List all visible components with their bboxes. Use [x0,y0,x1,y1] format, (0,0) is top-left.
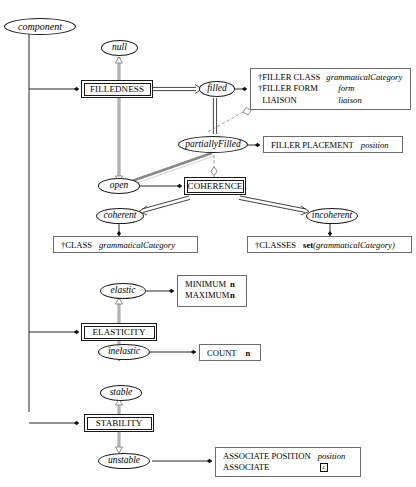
attr-row-class: †CLASS grammaticalCategory [61,240,191,251]
attr-row-filler-placement: FILLER PLACEMENT position [271,140,396,151]
filler-class-box[interactable]: †FILLER CLASS grammaticalCategory †FILLE… [250,68,411,110]
attr-name-minimum: MINIMUM [185,279,230,290]
state-open[interactable]: open [98,178,140,194]
attr-name-count: COUNT [207,348,237,359]
state-partially-filled-label: partiallyFilled [185,140,240,150]
attr-name-filler-form: FILLER FORM [262,83,338,94]
state-unstable-label: unstable [108,456,140,466]
attr-row-count: COUNT n [207,348,254,359]
class-elasticity-label: ELASTICITY [93,327,146,337]
state-component[interactable]: component [4,18,76,35]
state-elastic[interactable]: elastic [100,283,146,299]
attr-value-filler-placement: position [361,140,389,151]
class-attribute-box[interactable]: †CLASS grammaticalCategory [53,236,198,253]
state-null-label: null [112,43,127,53]
attr-name-filler-placement: FILLER PLACEMENT [271,140,354,151]
attr-row-filler-form: †FILLER FORM form [258,83,404,94]
attr-value-count: n [246,348,251,359]
attr-name-associate: ASSOCIATE [223,462,320,473]
class-elasticity[interactable]: ELASTICITY [81,323,157,341]
class-stability-inner: STABILITY [87,417,152,430]
attr-value-filler-class: grammaticalCategory [326,72,402,83]
state-stable-label: stable [110,388,133,398]
state-inelastic-label: inelastic [108,347,140,357]
state-coherent-label: coherent [104,211,137,221]
attr-value-class: grammaticalCategory [99,240,175,251]
class-stability-label: STABILITY [96,418,143,428]
attr-value-classes-arg: (grammaticalCategory) [313,240,395,251]
associate-box[interactable]: ASSOCIATE POSITION position ASSOCIATE c [215,447,361,477]
class-filledness[interactable]: FILLEDNESS [81,80,153,98]
filler-placement-box[interactable]: FILLER PLACEMENT position [263,136,403,153]
class-coherence-label: COHERENCE [188,181,243,191]
state-null[interactable]: null [101,40,138,56]
attr-value-associate: c [320,463,328,473]
state-filled-label: filled [207,84,227,94]
minmax-box[interactable]: MINIMUM n MAXIMUM n [177,275,247,307]
attr-row-classes: †CLASSES set(grammaticalCategory) [255,240,405,251]
state-partially-filled[interactable]: partiallyFilled [178,136,248,153]
class-stability[interactable]: STABILITY [84,414,154,432]
attr-value-liaison: liaison [338,95,361,106]
attr-value-filler-form: form [338,83,354,94]
attr-row-associate-position: ASSOCIATE POSITION position [223,451,354,462]
attr-value-classes-fn: set [303,240,313,251]
attr-row-filler-class: †FILLER CLASS grammaticalCategory [258,72,404,83]
attr-row-minimum: MINIMUM n [185,279,240,290]
attr-name-liaison: LIAISON [262,95,338,106]
attr-value-minimum: n [230,279,235,290]
attr-row-associate: ASSOCIATE c [223,462,354,473]
state-filled[interactable]: filled [199,81,235,97]
component-state-diagram: component null FILLEDNESS filled †FILLER… [0,0,416,487]
state-elastic-label: elastic [111,286,136,296]
class-filledness-label: FILLEDNESS [90,84,144,94]
attr-value-associate-position: position [318,451,346,462]
class-coherence-inner: COHERENCE [187,180,244,193]
class-elasticity-inner: ELASTICITY [84,326,155,339]
attr-row-maximum: MAXIMUM n [185,290,240,301]
count-box[interactable]: COUNT n [199,344,261,361]
state-incoherent[interactable]: incoherent [306,208,358,224]
attr-value-maximum: n [230,290,235,301]
state-inelastic[interactable]: inelastic [98,344,150,360]
attr-name-classes: CLASSES [259,240,296,251]
state-stable[interactable]: stable [100,385,142,401]
class-filledness-inner: FILLEDNESS [84,83,151,96]
attr-name-maximum: MAXIMUM [185,290,230,301]
state-component-label: component [18,22,62,32]
attr-name-class: CLASS [65,240,92,251]
state-open-label: open [110,181,128,191]
attr-name-filler-class: FILLER CLASS [262,72,320,83]
classes-attribute-box[interactable]: †CLASSES set(grammaticalCategory) [247,236,412,253]
attr-row-liaison: †LIAISON liaison [258,95,404,106]
class-coherence[interactable]: COHERENCE [184,177,246,195]
state-coherent[interactable]: coherent [96,208,144,224]
state-unstable[interactable]: unstable [98,453,150,469]
attr-name-associate-position: ASSOCIATE POSITION [223,451,311,462]
state-incoherent-label: incoherent [312,211,352,221]
